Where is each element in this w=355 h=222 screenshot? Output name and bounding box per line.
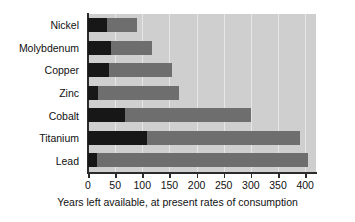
x-tick-label: 400 xyxy=(296,179,314,191)
y-category-label: Molybdenum xyxy=(0,37,83,60)
bar-segment-dark xyxy=(88,41,111,55)
bar-segment-dark xyxy=(88,108,125,122)
x-tick xyxy=(305,173,307,178)
x-tick-label: 250 xyxy=(215,179,233,191)
x-tick-label: 50 xyxy=(109,179,121,191)
x-tick xyxy=(169,173,171,178)
bar-row xyxy=(88,127,316,150)
bar-segment-dark xyxy=(88,63,109,77)
y-axis-category-labels: NickelMolybdenumCopperZincCobaltTitanium… xyxy=(0,14,83,172)
y-category-label: Zinc xyxy=(0,82,83,105)
bar-segment-light xyxy=(98,86,179,100)
y-category-label: Nickel xyxy=(0,14,83,37)
x-tick-label: 150 xyxy=(161,179,179,191)
bar-segment-dark xyxy=(88,86,98,100)
y-category-label: Titanium xyxy=(0,127,83,150)
bar-segment-light xyxy=(125,108,251,122)
bar-row xyxy=(88,14,316,37)
x-axis-title: Years left available, at present rates o… xyxy=(0,196,355,208)
bar-row xyxy=(88,82,316,105)
x-tick xyxy=(115,173,117,178)
bar-row xyxy=(88,104,316,127)
bar-segment-light xyxy=(109,63,173,77)
bar-segment-light xyxy=(147,131,300,145)
y-category-label: Cobalt xyxy=(0,104,83,127)
bar-row xyxy=(88,149,316,172)
bar-segment-dark xyxy=(88,131,147,145)
x-tick-label: 300 xyxy=(242,179,260,191)
bar-segment-dark xyxy=(88,18,107,32)
bar-row xyxy=(88,59,316,82)
x-tick xyxy=(278,173,280,178)
bar-segment-dark xyxy=(88,153,97,167)
x-tick xyxy=(251,173,253,178)
x-tick xyxy=(88,173,90,178)
y-category-label: Lead xyxy=(0,149,83,172)
bar-segment-light xyxy=(97,153,308,167)
x-tick-label: 0 xyxy=(85,179,91,191)
x-tick-label: 100 xyxy=(134,179,152,191)
y-category-label: Copper xyxy=(0,59,83,82)
x-tick-label: 200 xyxy=(188,179,206,191)
x-tick xyxy=(142,173,144,178)
chart-figure: 050100150200250300350400 NickelMolybdenu… xyxy=(0,0,355,222)
x-tick-label: 350 xyxy=(269,179,287,191)
bar-segment-light xyxy=(111,41,152,55)
x-tick xyxy=(224,173,226,178)
bar-row xyxy=(88,37,316,60)
bar-rows xyxy=(88,14,316,172)
x-tick xyxy=(197,173,199,178)
x-axis-line xyxy=(87,172,317,174)
bar-segment-light xyxy=(107,18,137,32)
